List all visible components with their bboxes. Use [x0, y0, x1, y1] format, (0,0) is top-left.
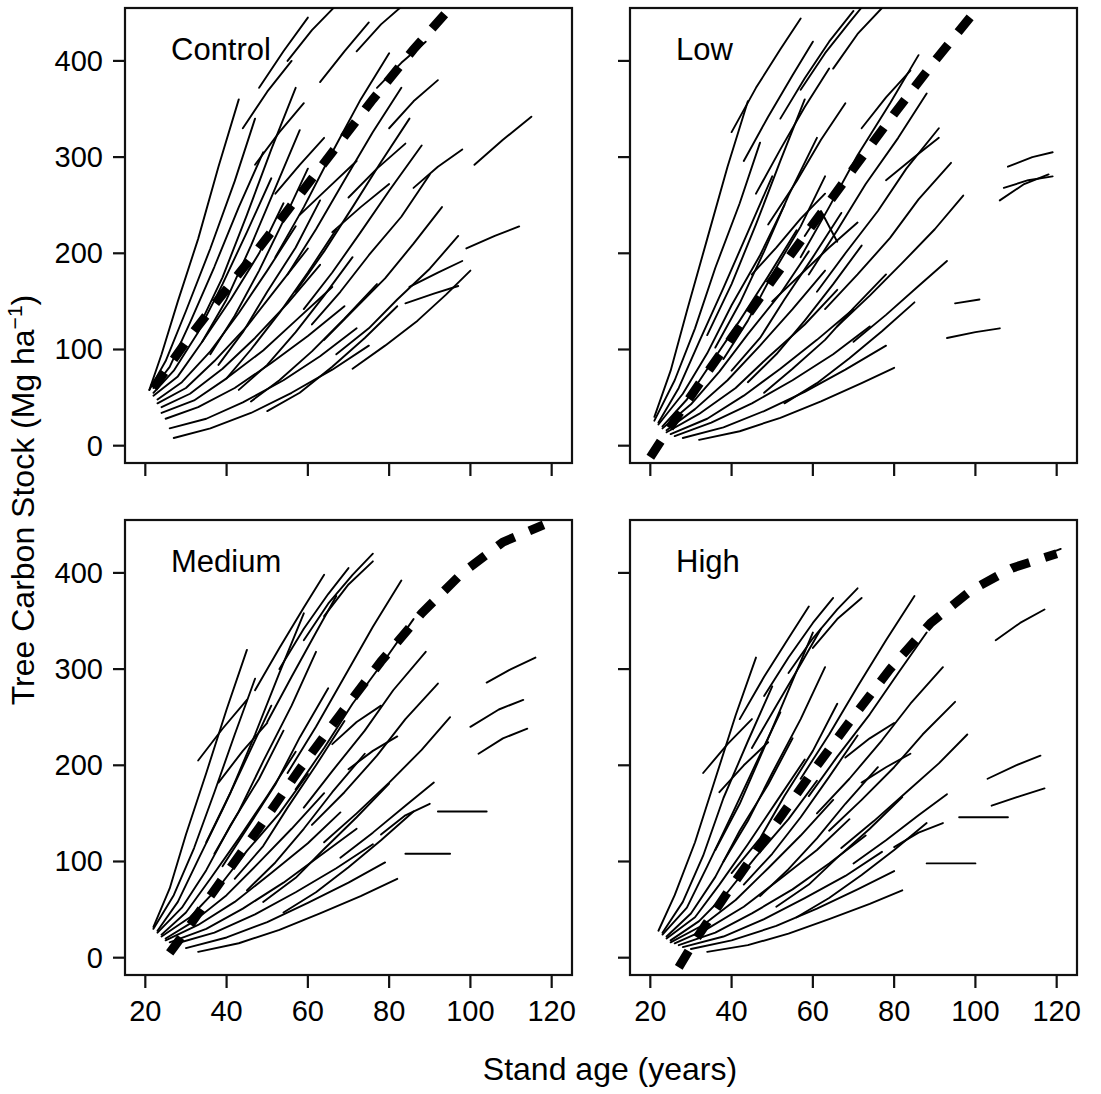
- y-axis-title-main: Tree Carbon Stock (Mg ha: [5, 329, 41, 705]
- y-tick-label: 400: [55, 45, 103, 77]
- figure-root: Tree Carbon Stock (Mg ha−1) Stand age (y…: [0, 0, 1101, 1094]
- trajectory-line: [752, 629, 821, 748]
- x-tick-label: 100: [951, 995, 999, 1027]
- trajectory-line: [198, 700, 247, 761]
- y-axis-title: Tree Carbon Stock (Mg ha−1): [3, 295, 41, 705]
- x-tick-label: 80: [373, 995, 405, 1027]
- x-tick-label: 20: [129, 995, 161, 1027]
- trajectory-line: [845, 723, 894, 758]
- y-tick-label: 400: [55, 557, 103, 589]
- trajectory-line: [210, 169, 308, 355]
- svg-text:Tree Carbon Stock (Mg ha−1): Tree Carbon Stock (Mg ha−1): [3, 295, 41, 705]
- y-tick-label: 300: [55, 141, 103, 173]
- panel-data: [153, 525, 543, 953]
- x-tick-label: 40: [715, 995, 747, 1027]
- trajectory-line: [255, 575, 324, 690]
- trajectory-line: [764, 598, 833, 696]
- y-axis-title-superscript: −1: [3, 305, 26, 329]
- trajectory-line: [405, 286, 458, 303]
- trajectory-line: [663, 686, 773, 932]
- trajectory-line: [992, 788, 1045, 805]
- panel-label-medium: Medium: [171, 544, 281, 579]
- y-tick-label: 0: [87, 942, 103, 974]
- trajectory-line: [149, 99, 238, 390]
- trajectory-line: [170, 328, 357, 428]
- trajectory-line: [218, 723, 267, 783]
- panel-control: 0100200300400Control: [55, 0, 572, 476]
- panel-label-high: High: [676, 544, 740, 579]
- trajectory-line: [813, 598, 862, 648]
- trajectory-line: [320, 22, 369, 82]
- x-tick-label: 60: [292, 995, 324, 1027]
- fitted-trend-line: [170, 525, 544, 953]
- panel-frame: [125, 520, 572, 975]
- trajectory-line: [996, 609, 1045, 640]
- trajectory-line: [862, 754, 911, 783]
- trajectory-line: [409, 261, 462, 287]
- x-tick-label: 120: [527, 995, 575, 1027]
- trajectory-line: [198, 879, 397, 952]
- y-tick-label: 100: [55, 333, 103, 365]
- trajectory-line: [283, 811, 413, 912]
- trajectory-line: [671, 781, 817, 941]
- trajectory-line: [817, 667, 943, 813]
- x-tick-label: 100: [446, 995, 494, 1027]
- trajectory-line: [894, 823, 943, 847]
- trajectory-line: [479, 729, 528, 754]
- x-tick-label: 60: [797, 995, 829, 1027]
- trajectory-line: [279, 568, 348, 669]
- trajectory-line: [988, 756, 1041, 779]
- y-tick-label: 200: [55, 749, 103, 781]
- trajectory-line: [304, 652, 426, 808]
- panel-frame: [630, 520, 1077, 975]
- trajectory-line: [833, 8, 882, 69]
- trajectory-line: [474, 117, 531, 165]
- y-tick-label: 200: [55, 237, 103, 269]
- trajectory-line: [487, 658, 536, 683]
- trajectory-line: [854, 261, 947, 342]
- four-panel-line-chart: Tree Carbon Stock (Mg ha−1) Stand age (y…: [0, 0, 1101, 1094]
- panel-frame: [125, 8, 572, 463]
- trajectory-line: [312, 684, 438, 825]
- x-tick-label: 40: [210, 995, 242, 1027]
- trajectory-line: [854, 794, 947, 863]
- trajectory-line: [349, 144, 406, 198]
- trajectory-line: [466, 226, 519, 248]
- panel-medium: 010020030040020406080100120Medium: [55, 520, 576, 1027]
- x-axis-title: Stand age (years): [483, 1051, 737, 1087]
- trajectory-line: [332, 184, 389, 232]
- trajectory-line: [1008, 152, 1053, 166]
- trajectory-line: [732, 19, 801, 133]
- trajectory-line: [740, 607, 809, 720]
- panels-layer: 0100200300400ControlLow01002003004002040…: [55, 0, 1081, 1027]
- trajectory-line: [809, 633, 927, 797]
- trajectory-line: [947, 328, 1000, 338]
- trajectory-line: [955, 299, 979, 303]
- trajectory-line: [825, 163, 951, 309]
- trajectory-line: [186, 862, 385, 948]
- trajectory-line: [202, 130, 300, 342]
- panel-low: Low: [618, 0, 1077, 476]
- x-tick-label: 80: [878, 995, 910, 1027]
- trajectory-line: [149, 119, 255, 390]
- panel-label-control: Control: [171, 32, 271, 67]
- trajectory-line: [801, 596, 915, 779]
- trajectory-line: [788, 588, 857, 673]
- trajectory-line: [772, 223, 857, 302]
- x-tick-label: 20: [634, 995, 666, 1027]
- trajectory-line: [671, 800, 834, 942]
- trajectory-line: [389, 80, 438, 128]
- trajectory-line: [841, 735, 967, 849]
- x-tick-label: 120: [1032, 995, 1080, 1027]
- panel-data: [658, 549, 1060, 967]
- trajectory-line: [744, 42, 813, 161]
- trajectory-line: [470, 700, 523, 727]
- y-tick-label: 300: [55, 653, 103, 685]
- trajectory-line: [255, 103, 304, 165]
- trajectory-line: [414, 149, 463, 187]
- trajectory-line: [288, 5, 337, 61]
- panel-high: 20406080100120High: [618, 520, 1081, 1027]
- y-tick-label: 0: [87, 430, 103, 462]
- panel-label-low: Low: [676, 32, 733, 67]
- y-axis-title-tail: ): [5, 295, 41, 306]
